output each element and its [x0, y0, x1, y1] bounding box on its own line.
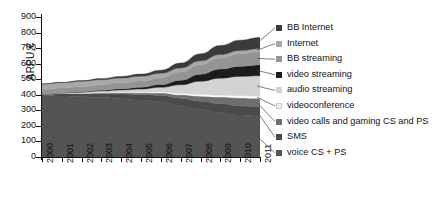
- legend-item: voice CS + PS: [276, 146, 438, 162]
- x-tick-label: 2010: [244, 143, 253, 163]
- x-tick-label: 2007: [185, 143, 194, 163]
- legend-item: videoconference: [276, 99, 438, 115]
- legend-label: audio streaming: [287, 83, 352, 96]
- legend-swatch-icon: [276, 41, 282, 47]
- x-tick-label: 2009: [224, 143, 233, 163]
- legend-label: Internet: [287, 37, 318, 50]
- y-tick-label: 600: [10, 59, 36, 68]
- x-tick-label: 2001: [66, 143, 75, 163]
- y-tick-label: 0: [10, 152, 36, 161]
- legend-item: video calls and gaming CS and PS: [276, 115, 438, 131]
- x-tick-mark: [101, 157, 102, 162]
- y-tick-label: 200: [10, 121, 36, 130]
- legend-item: BB Internet: [276, 21, 438, 37]
- y-tick-label: 400: [10, 90, 36, 99]
- x-tick-mark: [121, 157, 122, 162]
- x-tick-mark: [240, 157, 241, 162]
- x-tick-mark: [181, 157, 182, 162]
- legend-label: voice CS + PS: [287, 146, 347, 159]
- y-axis-ticks: 9008007006005004003002001000: [0, 0, 36, 199]
- legend-swatch-icon: [276, 119, 282, 125]
- legend-label: video calls and gaming CS and PS: [287, 115, 428, 128]
- legend-label: BB streaming: [287, 52, 342, 65]
- y-tick-label: 900: [10, 12, 36, 21]
- x-tick-mark: [141, 157, 142, 162]
- y-tick-label: 300: [10, 105, 36, 114]
- x-tick-mark: [220, 157, 221, 162]
- y-tick-mark: [36, 17, 41, 18]
- y-tick-mark: [36, 141, 41, 142]
- legend-swatch-icon: [276, 103, 282, 109]
- legend-item: BB streaming: [276, 52, 438, 68]
- x-tick-mark: [82, 157, 83, 162]
- y-tick-label: 500: [10, 74, 36, 83]
- x-tick-label: 2008: [205, 143, 214, 163]
- y-tick-mark: [36, 79, 41, 80]
- x-tick-label: 2004: [125, 143, 134, 163]
- y-tick-label: 700: [10, 43, 36, 52]
- legend-label: SMS: [287, 130, 307, 143]
- y-tick-mark: [36, 126, 41, 127]
- legend-item: Internet: [276, 37, 438, 53]
- y-tick-mark: [36, 48, 41, 49]
- legend-label: BB Internet: [287, 21, 333, 34]
- legend-label: videoconference: [287, 99, 354, 112]
- y-tick-mark: [36, 33, 41, 34]
- legend-swatch-icon: [276, 87, 282, 93]
- legend-swatch-icon: [276, 150, 282, 156]
- stacked-area-plot: [42, 17, 260, 157]
- legend-swatch-icon: [276, 134, 282, 140]
- legend-item: SMS: [276, 130, 438, 146]
- legend-swatch-icon: [276, 56, 282, 62]
- x-tick-label: 2003: [105, 143, 114, 163]
- x-tick-label: 2006: [165, 143, 174, 163]
- chart-root: ARPU,€ 9008007006005004003002001000 BB I…: [0, 0, 438, 199]
- x-tick-mark: [161, 157, 162, 162]
- y-tick-mark: [36, 110, 41, 111]
- x-tick-label: 2005: [145, 143, 154, 163]
- x-tick-mark: [62, 157, 63, 162]
- legend-swatch-icon: [276, 72, 282, 78]
- y-tick-label: 800: [10, 28, 36, 37]
- x-tick-mark: [260, 157, 261, 162]
- x-tick-label: 2011: [264, 144, 273, 163]
- x-tick-mark: [42, 157, 43, 162]
- x-tick-label: 2000: [46, 143, 55, 163]
- y-tick-mark: [36, 95, 41, 96]
- legend-item: video streaming: [276, 68, 438, 84]
- legend-swatch-icon: [276, 25, 282, 31]
- x-tick-label: 2002: [86, 143, 95, 163]
- x-tick-mark: [201, 157, 202, 162]
- legend-item: audio streaming: [276, 83, 438, 99]
- y-tick-label: 100: [10, 136, 36, 145]
- y-tick-mark: [36, 157, 41, 158]
- chart-legend: BB InternetInternetBB streamingvideo str…: [276, 21, 438, 161]
- y-tick-mark: [36, 64, 41, 65]
- legend-label: video streaming: [287, 68, 352, 81]
